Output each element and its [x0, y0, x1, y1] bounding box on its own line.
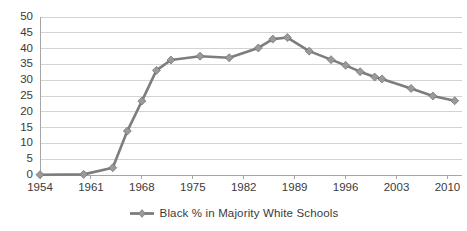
y-tick-20: 20: [20, 105, 33, 117]
gridlines-group: [40, 17, 462, 175]
chart-legend: Black % in Majority White Schools: [0, 198, 467, 228]
x-tick-1996: 1996: [333, 181, 359, 193]
data-point-1994: [327, 56, 335, 64]
chart-container: 05101520253035404550 1954196119681975198…: [0, 0, 467, 231]
x-tick-2003: 2003: [384, 181, 410, 193]
data-point-2008: [429, 92, 437, 100]
data-point-1998: [356, 68, 364, 76]
y-tick-15: 15: [20, 121, 33, 133]
series-line-0: [40, 38, 455, 175]
data-point-1980: [225, 54, 233, 62]
y-tick-0: 0: [27, 168, 33, 180]
data-point-1954: [36, 171, 44, 179]
data-point-1996: [342, 61, 350, 69]
x-axis-tick-labels: 195419611968197519821989199620032010: [27, 181, 460, 193]
x-tick-1968: 1968: [129, 181, 155, 193]
axis-lines-group: [40, 17, 462, 179]
y-tick-50: 50: [20, 10, 33, 22]
x-tick-1982: 1982: [231, 181, 257, 193]
y-tick-35: 35: [20, 57, 33, 69]
data-point-2005: [407, 84, 415, 92]
y-tick-30: 30: [20, 73, 33, 85]
y-tick-10: 10: [20, 136, 33, 148]
y-tick-25: 25: [20, 89, 33, 101]
data-series-group: [36, 34, 459, 179]
legend-line-marker-icon: [129, 208, 155, 219]
x-tick-1989: 1989: [282, 181, 308, 193]
data-point-1976: [196, 52, 204, 60]
data-point-2001: [378, 75, 386, 83]
legend-item-label: Black % in Majority White Schools: [160, 207, 339, 219]
x-tick-1975: 1975: [180, 181, 206, 193]
data-point-1960: [80, 170, 88, 178]
x-tick-2010: 2010: [435, 181, 461, 193]
y-tick-40: 40: [20, 42, 33, 54]
x-tick-1954: 1954: [27, 181, 53, 193]
data-point-1964: [109, 164, 117, 172]
data-point-2011: [451, 97, 459, 105]
y-tick-45: 45: [20, 26, 33, 38]
x-tick-1961: 1961: [78, 181, 104, 193]
plot-area: 05101520253035404550 1954196119681975198…: [0, 0, 467, 196]
y-tick-5: 5: [27, 152, 33, 164]
line-chart-svg: 05101520253035404550 1954196119681975198…: [0, 0, 467, 196]
y-axis-tick-labels: 05101520253035404550: [20, 10, 33, 180]
